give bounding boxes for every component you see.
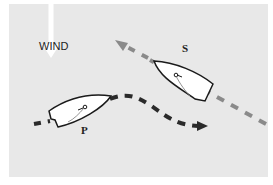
port-track-arrowhead-icon (197, 121, 208, 131)
starboard-track-arrowhead-icon (115, 40, 128, 51)
port-boat-icon (49, 95, 111, 127)
starboard-boat-icon (154, 61, 213, 101)
port-boat-label: P (81, 124, 88, 136)
wind-label: WIND (39, 40, 68, 52)
sailing-diagram (0, 0, 273, 185)
starboard-boat-label: S (182, 42, 188, 54)
